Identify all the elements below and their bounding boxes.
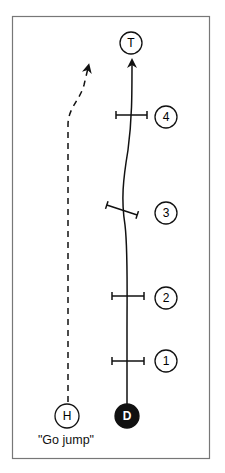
tick-marker-3 — [106, 201, 139, 218]
driver-path — [123, 63, 132, 404]
marker-label: 2 — [163, 291, 170, 305]
driver-label: D — [123, 409, 132, 423]
helper-label: H — [63, 409, 72, 423]
driver-node: D — [115, 404, 139, 428]
tick-marker-1 — [112, 357, 144, 365]
marker-label: 1 — [163, 354, 170, 368]
marker-label: 3 — [163, 206, 170, 220]
target-node: T — [120, 32, 142, 54]
marker-label: 4 — [163, 110, 170, 124]
diagram-frame — [13, 17, 210, 459]
helper-node: H — [55, 404, 79, 428]
diagram-canvas: 4 3 2 1 T H D "Go jump" — [0, 0, 225, 473]
marker-4: 4 — [155, 106, 177, 128]
tick-marker-2 — [112, 292, 144, 300]
helper-path — [68, 68, 88, 402]
marker-2: 2 — [155, 287, 177, 309]
target-label: T — [127, 36, 135, 50]
marker-3: 3 — [155, 202, 177, 224]
marker-1: 1 — [155, 350, 177, 372]
helper-caption: "Go jump" — [38, 433, 94, 447]
